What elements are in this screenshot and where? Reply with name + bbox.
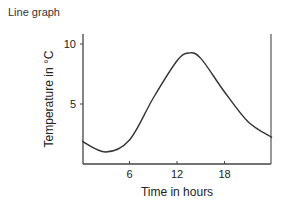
y-tick-label: 5 [70,98,76,110]
y-tick-label: 10 [64,38,76,50]
line-chart: 510 61218 Time in hours Temperature in °… [0,0,284,206]
temperature-line [82,53,272,152]
x-tick-label: 12 [171,168,183,180]
y-axis-label: Temperature in °C [42,50,56,147]
x-tick-label: 6 [126,168,132,180]
x-tick-label: 18 [218,168,230,180]
x-axis-label: Time in hours [141,185,213,199]
y-ticks: 510 [64,38,83,110]
